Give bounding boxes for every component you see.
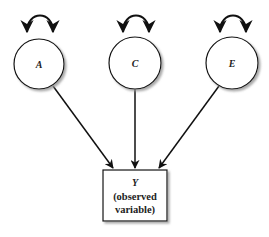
node-y-observed: Y (observed variable) (103, 170, 167, 221)
node-a-label: A (35, 59, 43, 70)
node-e: E (206, 37, 258, 89)
node-a: A (14, 39, 64, 89)
node-e-label: E (228, 58, 236, 69)
self-loop-c (123, 16, 149, 33)
node-y-label: Y (132, 177, 139, 188)
node-c-label: C (132, 58, 139, 69)
edge-e-to-y (159, 86, 219, 168)
node-y-desc-line2: variable) (115, 204, 156, 216)
self-loop-a (27, 16, 53, 33)
node-c: C (109, 37, 161, 89)
edge-a-to-y (53, 86, 113, 168)
path-diagram: A C E Y (observed variable) (0, 0, 269, 237)
self-loop-e (220, 16, 246, 33)
node-y-desc-line1: (observed (113, 191, 157, 203)
